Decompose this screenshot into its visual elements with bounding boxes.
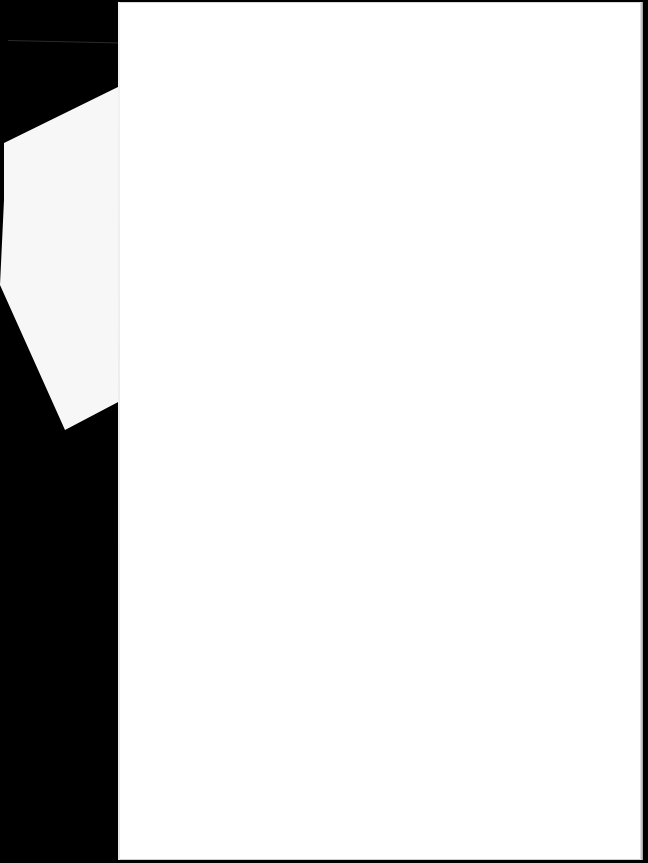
page-left-edge: [118, 2, 120, 860]
page-body-text: [158, 42, 603, 820]
scan-scene: [0, 0, 648, 863]
blank-document-page: [118, 2, 643, 860]
page-right-edge: [640, 2, 643, 860]
